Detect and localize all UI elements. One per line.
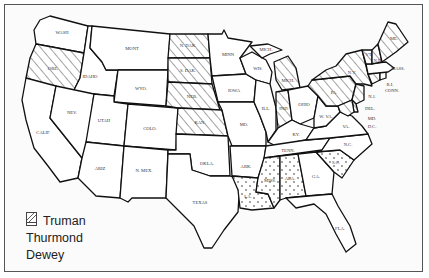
svg-text:N. DAK.: N. DAK. bbox=[180, 43, 197, 48]
svg-text:IOWA: IOWA bbox=[228, 88, 241, 93]
svg-text:NEV.: NEV. bbox=[67, 110, 77, 115]
state-neb[interactable]: NEB. bbox=[166, 82, 220, 110]
svg-text:IDAHO: IDAHO bbox=[83, 74, 98, 79]
svg-text:VA.: VA. bbox=[342, 124, 349, 129]
state-ariz[interactable]: ARIZ bbox=[78, 142, 124, 198]
svg-text:ME.: ME. bbox=[390, 36, 398, 41]
state-nmex[interactable]: N. MEX. bbox=[120, 146, 168, 202]
svg-text:MASS.: MASS. bbox=[391, 66, 405, 71]
svg-text:ORE.: ORE. bbox=[48, 66, 58, 71]
svg-text:MINN: MINN bbox=[222, 52, 235, 57]
svg-text:MONT: MONT bbox=[125, 46, 139, 51]
state-sdak[interactable]: S. DAK. bbox=[168, 58, 212, 84]
svg-text:S.C.: S.C. bbox=[332, 160, 340, 165]
state-kan[interactable]: KAN. bbox=[176, 108, 228, 136]
svg-text:CONN.: CONN. bbox=[385, 88, 399, 93]
svg-text:COLO.: COLO. bbox=[143, 126, 157, 131]
svg-text:CALIF: CALIF bbox=[36, 130, 50, 135]
state-mich[interactable]: MICH. bbox=[274, 56, 300, 90]
svg-text:ARK.: ARK. bbox=[241, 164, 252, 169]
svg-text:N. MEX.: N. MEX. bbox=[136, 168, 153, 173]
svg-text:ARIZ: ARIZ bbox=[95, 166, 106, 171]
svg-text:OKLA.: OKLA. bbox=[200, 161, 214, 166]
state-fla[interactable]: FLA. bbox=[286, 194, 356, 252]
svg-text:S. DAK.: S. DAK. bbox=[180, 68, 196, 73]
svg-text:IND.: IND. bbox=[279, 106, 288, 111]
svg-text:TEXAS: TEXAS bbox=[193, 200, 208, 205]
svg-text:WASH: WASH bbox=[55, 30, 69, 35]
state-mont[interactable]: MONT bbox=[90, 26, 170, 70]
svg-text:OHIO: OHIO bbox=[298, 102, 310, 107]
state-ndak[interactable]: N. DAK. bbox=[168, 34, 210, 58]
state-ri[interactable]: R.I. bbox=[380, 72, 393, 87]
svg-text:W. VA.: W. VA. bbox=[319, 114, 332, 119]
svg-text:MICH.: MICH. bbox=[281, 78, 294, 83]
svg-text:WYO.: WYO. bbox=[135, 86, 147, 91]
legend-item-dewey: Dewey bbox=[26, 246, 86, 263]
svg-text:N.Y.: N.Y. bbox=[348, 70, 356, 75]
svg-text:LA.: LA. bbox=[244, 194, 251, 199]
state-colo[interactable]: COLO. bbox=[124, 104, 178, 150]
svg-text:WIS.: WIS. bbox=[253, 66, 263, 71]
svg-text:KAN.: KAN. bbox=[194, 120, 205, 125]
svg-text:ALA.: ALA. bbox=[285, 176, 296, 181]
svg-text:MISS.: MISS. bbox=[264, 178, 276, 183]
svg-text:ILL.: ILL. bbox=[262, 106, 270, 111]
svg-text:PA.: PA. bbox=[331, 90, 338, 95]
svg-text:NEB.: NEB. bbox=[187, 94, 197, 99]
svg-text:FLA.: FLA. bbox=[335, 226, 345, 231]
dc-label: D.C. bbox=[368, 124, 377, 129]
hatch-swatch-icon bbox=[26, 212, 37, 223]
legend: Truman Thurmond Dewey bbox=[26, 212, 86, 263]
svg-text:MD.: MD. bbox=[368, 116, 377, 121]
svg-text:TENN.: TENN. bbox=[281, 148, 294, 153]
svg-text:KY.: KY. bbox=[292, 132, 299, 137]
svg-text:GA.: GA. bbox=[312, 174, 320, 179]
svg-text:DEL.: DEL. bbox=[365, 106, 375, 111]
svg-text:R.I.: R.I. bbox=[387, 82, 394, 87]
state-iowa[interactable]: IOWA bbox=[212, 74, 256, 102]
state-me[interactable]: ME. bbox=[378, 22, 408, 62]
svg-text:N.J.: N.J. bbox=[368, 94, 375, 99]
svg-text:MO.: MO. bbox=[240, 122, 249, 127]
svg-text:N.C.: N.C. bbox=[344, 142, 353, 147]
mich-upper-label: MICH. bbox=[259, 47, 272, 52]
state-wyo[interactable]: WYO. bbox=[114, 70, 168, 106]
legend-item-thurmond: Thurmond bbox=[26, 229, 86, 246]
state-nj[interactable]: N.J. bbox=[352, 84, 376, 104]
svg-text:UTAH: UTAH bbox=[98, 118, 111, 123]
